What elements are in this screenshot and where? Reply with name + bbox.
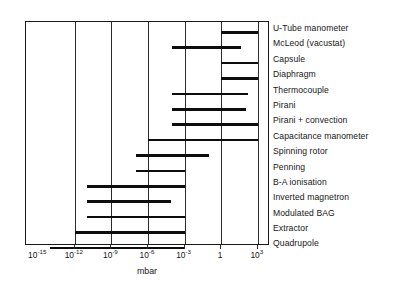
series-label: B-A ionisation xyxy=(273,175,405,190)
series-label: Capacitance manometer xyxy=(273,129,405,144)
series-label: Pirani xyxy=(273,98,405,113)
series-label: Spinning rotor xyxy=(273,144,405,159)
range-bar xyxy=(136,170,185,173)
x-tick-label: 10-9 xyxy=(103,250,118,260)
range-bar xyxy=(221,62,258,65)
series-label: Modulated BAG xyxy=(273,206,405,221)
x-tick-label: 10-15 xyxy=(28,250,46,260)
range-bar xyxy=(172,46,240,49)
range-bar xyxy=(148,139,258,142)
range-bar xyxy=(172,93,248,96)
x-axis: 10-1510-1210-910-610-31103 xyxy=(0,245,405,265)
range-bar xyxy=(221,31,258,34)
series-label: Diaphragm xyxy=(273,67,405,82)
gauge-range-chart: U-Tube manometerMcLeod (vacustat)Capsule… xyxy=(0,0,405,289)
range-bar xyxy=(87,185,185,188)
range-bar xyxy=(75,231,185,234)
x-tick-label: 1 xyxy=(218,250,223,260)
range-bar xyxy=(221,77,258,80)
range-bar xyxy=(172,108,245,111)
series-label: Extractor xyxy=(273,221,405,236)
x-tick-label: 103 xyxy=(250,250,263,260)
series-label: Penning xyxy=(273,160,405,175)
range-bar xyxy=(172,123,257,126)
series-label: Capsule xyxy=(273,52,405,67)
x-tick-label: 10-6 xyxy=(140,250,155,260)
plot-area xyxy=(25,21,269,245)
bar-series-layer xyxy=(26,22,268,244)
series-label: Thermocouple xyxy=(273,83,405,98)
x-tick-mark xyxy=(257,245,258,249)
series-label: Inverted magnetron xyxy=(273,190,405,205)
range-bar xyxy=(87,216,185,219)
series-label-list: U-Tube manometerMcLeod (vacustat)Capsule… xyxy=(273,21,405,252)
series-label: U-Tube manometer xyxy=(273,21,405,36)
x-axis-title: mbar xyxy=(25,266,269,276)
series-label: McLeod (vacustat) xyxy=(273,36,405,51)
x-tick-label: 10-3 xyxy=(176,250,191,260)
x-tick-mark xyxy=(220,245,221,249)
range-bar xyxy=(87,200,171,203)
series-label: Pirani + convection xyxy=(273,113,405,128)
x-tick-label: 10-12 xyxy=(65,250,83,260)
range-bar xyxy=(136,154,209,157)
